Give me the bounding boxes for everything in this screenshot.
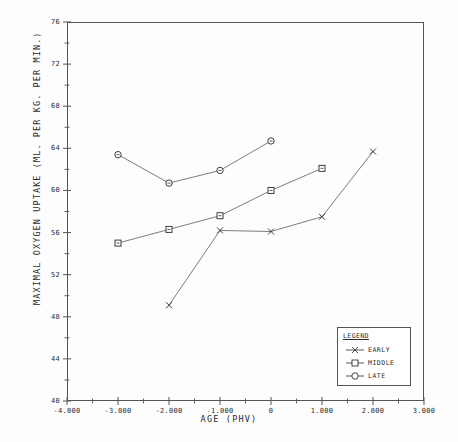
data-point-middle xyxy=(166,226,172,232)
data-point-middle xyxy=(268,187,274,193)
series-line-early xyxy=(169,151,373,305)
data-point-late xyxy=(217,167,223,173)
x-marker-icon xyxy=(346,344,364,356)
square-marker-icon xyxy=(346,357,364,369)
data-point-middle xyxy=(217,213,223,219)
legend-title: LEGEND xyxy=(343,332,410,340)
chart-figure: 76726864605652484440 -4.000-3.000-2.000-… xyxy=(0,0,458,442)
data-point-middle xyxy=(115,240,121,246)
legend-item-middle: MIDDLE xyxy=(346,356,410,369)
x-axis-title: AGE (PHV) xyxy=(0,414,458,424)
legend-label-early: EARLY xyxy=(368,346,390,354)
data-point-early xyxy=(370,148,376,154)
data-point-late xyxy=(268,138,274,144)
data-point-late xyxy=(166,180,172,186)
circle-marker-icon xyxy=(346,370,364,382)
series-markers xyxy=(115,138,376,308)
series-lines xyxy=(118,141,373,305)
y-tick-label: 48 xyxy=(36,313,60,321)
y-axis-title: MAXIMAL OXYGEN UPTAKE (ML. PER KG. PER M… xyxy=(32,105,42,305)
y-axis-minor-ticks xyxy=(65,43,70,380)
data-point-middle xyxy=(319,165,325,171)
legend-label-middle: MIDDLE xyxy=(368,359,394,367)
series-line-middle xyxy=(118,168,322,243)
data-point-late xyxy=(115,151,121,157)
legend-item-early: EARLY xyxy=(346,343,410,356)
x-axis-minor-ticks xyxy=(93,399,399,404)
data-point-early xyxy=(166,302,172,308)
legend: LEGEND EARLY MIDDLE LATE xyxy=(337,327,411,386)
y-tick-label: 76 xyxy=(36,18,60,26)
legend-label-late: LATE xyxy=(368,372,386,380)
legend-item-late: LATE xyxy=(346,369,410,382)
series-line-late xyxy=(118,141,271,183)
y-tick-label: 44 xyxy=(36,355,60,363)
y-tick-label: 40 xyxy=(36,397,60,405)
data-point-early xyxy=(319,214,325,220)
